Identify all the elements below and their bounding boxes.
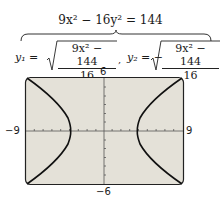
graph-window xyxy=(0,0,221,200)
